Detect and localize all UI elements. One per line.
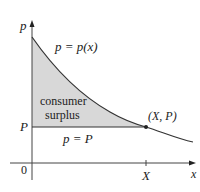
consumer-surplus-diagram: p x 0 p = p(x) consumer surplus P p = P … (0, 0, 200, 192)
y-axis-arrow-icon (30, 20, 35, 27)
x-axis-arrow-icon (189, 161, 196, 166)
x-tick-label: X (141, 168, 151, 183)
y-axis-label: p (19, 18, 27, 33)
curve-label: p = p(x) (54, 39, 98, 54)
origin-label: 0 (21, 163, 27, 177)
x-axis-label: x (190, 167, 197, 181)
point-marker (144, 125, 148, 129)
point-label: (X, P) (148, 109, 177, 123)
region-label-line1: consumer (40, 94, 87, 108)
price-level-label: P (19, 119, 28, 134)
region-label-line2: surplus (45, 108, 80, 122)
price-line-label: p = P (62, 131, 93, 146)
